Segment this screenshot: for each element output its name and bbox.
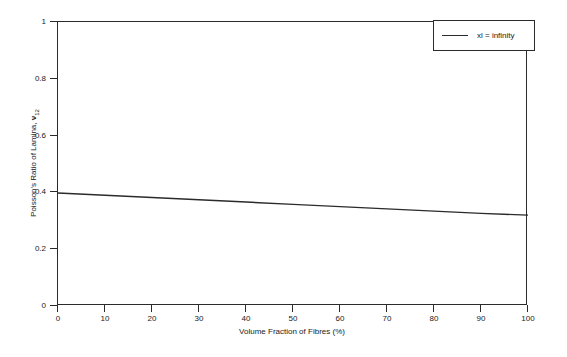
x-axis-tick: 60 [339,305,340,312]
x-axis-tick-label: 100 [521,315,534,323]
x-axis-tick: 90 [480,305,481,312]
data-line-xl-infinity [58,193,528,215]
x-axis-tick-label: 20 [148,315,157,323]
nu-symbol: ν [29,116,38,120]
y-axis-tick: 0.8 [50,78,57,79]
y-axis-title: Poisson's Ratio of Lamina, ν12 [27,21,41,305]
legend: xl = infinity [433,20,535,51]
legend-line-swatch [442,35,468,36]
y-axis-tick: 0 [50,305,57,306]
x-axis-tick: 10 [104,305,105,312]
x-axis-tick: 40 [245,305,246,312]
x-axis-tick-label: 40 [242,315,251,323]
y-axis-tick-label: 0.2 [35,245,46,253]
y-axis-tick-label: 1 [42,18,46,26]
x-axis-tick-label: 80 [430,315,439,323]
plot-area [57,21,527,305]
y-axis-tick-label: 0.4 [35,188,46,196]
y-axis-tick: 0.6 [50,135,57,136]
y-axis-tick-label: 0.6 [35,132,46,140]
x-axis-tick: 70 [386,305,387,312]
x-axis-tick-label: 70 [383,315,392,323]
x-axis-tick-label: 50 [289,315,298,323]
y-axis-tick: 0.4 [50,191,57,192]
x-axis-tick: 20 [151,305,152,312]
x-axis-tick: 30 [198,305,199,312]
x-axis-tick: 100 [527,305,528,312]
x-axis-tick-label: 30 [195,315,204,323]
x-axis-tick: 0 [57,305,58,312]
x-axis-tick-label: 0 [56,315,60,323]
y-axis-tick: 1 [50,21,57,22]
y-axis-tick-label: 0.8 [35,75,46,83]
x-axis-tick: 50 [292,305,293,312]
x-axis-tick-label: 90 [477,315,486,323]
x-axis-tick-label: 10 [101,315,110,323]
x-axis-tick: 80 [433,305,434,312]
x-axis-tick-label: 60 [336,315,345,323]
x-axis-title: Volume Fraction of Fibres (%) [57,327,527,336]
y-axis-tick: 0.2 [50,248,57,249]
data-series-svg [58,22,528,306]
y-axis-tick-label: 0 [42,302,46,310]
nu-subscript: 12 [34,109,40,116]
chart-page: Poisson's Ratio of Lamina, ν12 Volume Fr… [0,0,567,357]
legend-label: xl = infinity [477,31,515,40]
